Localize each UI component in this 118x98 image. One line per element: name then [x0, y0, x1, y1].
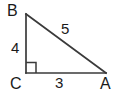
vertex-label-b: B — [7, 3, 18, 19]
geometry-diagram: B C A 4 3 5 — [0, 0, 118, 98]
side-length-label-bc: 4 — [11, 40, 19, 55]
vertex-label-c: C — [10, 76, 22, 92]
side-length-label-ca: 3 — [55, 75, 63, 90]
vertex-label-a: A — [100, 76, 111, 92]
side-length-label-ab: 5 — [61, 21, 69, 36]
